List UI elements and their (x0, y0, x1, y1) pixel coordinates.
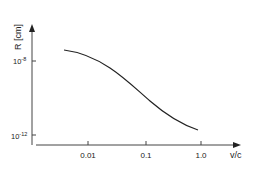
chart: 10-8 10-12 0.01 0.1 1.0 v/c R [cm] (0, 0, 253, 169)
x-axis-label: v/c (230, 150, 242, 160)
x-tick-label-1.0: 1.0 (195, 151, 207, 160)
x-tick-label-0.1: 0.1 (140, 151, 152, 160)
y-axis-label: R [cm] (13, 24, 23, 50)
data-curve (64, 50, 198, 130)
y-tick-label-1e-12: 10-12 (11, 131, 27, 141)
x-tick-label-0.01: 0.01 (80, 151, 96, 160)
y-axis-arrow-icon (29, 24, 35, 32)
y-tick-label-1e-8: 10-8 (13, 56, 26, 66)
x-axis-arrow-icon (233, 142, 241, 148)
